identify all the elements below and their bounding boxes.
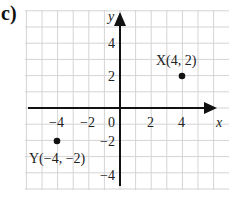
x-tick-label: 2 xyxy=(147,115,154,130)
x-tick-label: 0 xyxy=(108,115,115,130)
point-x-label: X(4, 2) xyxy=(156,53,197,69)
y-tick-label: 2 xyxy=(108,69,115,84)
point-y xyxy=(54,138,61,145)
x-axis-label: x xyxy=(215,115,223,130)
point-x xyxy=(179,73,186,80)
x-tick-label: −4 xyxy=(49,115,64,130)
coordinate-plane: y x −4 −2 0 2 4 4 2 −2 −4 X(4, 2) Y(−4, … xyxy=(0,0,229,197)
y-tick-label: −4 xyxy=(100,168,115,183)
y-axis-label: y xyxy=(106,9,115,24)
x-axis-arrow-icon xyxy=(204,102,217,114)
x-tick-label: −2 xyxy=(80,115,95,130)
y-axis-arrow-icon xyxy=(114,12,126,26)
y-tick-label: −2 xyxy=(100,134,115,149)
point-y-label: Y(−4, −2) xyxy=(29,151,86,167)
x-tick-label: 4 xyxy=(178,115,185,130)
y-tick-label: 4 xyxy=(108,36,115,51)
